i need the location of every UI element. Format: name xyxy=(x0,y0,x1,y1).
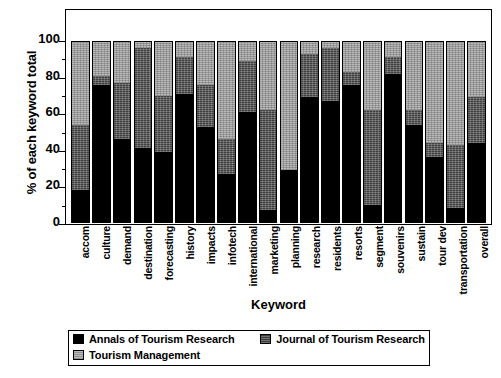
bar-segment xyxy=(321,101,340,223)
y-tick-label: 80 xyxy=(26,69,60,82)
legend-swatch-icon-tourism-management xyxy=(73,350,84,360)
x-tick-destination: destination xyxy=(133,226,152,298)
y-tick-label: 60 xyxy=(26,105,60,118)
bar-segment xyxy=(300,41,319,54)
y-minor-tick-mark xyxy=(62,96,66,97)
bar-destination[interactable] xyxy=(134,41,153,223)
x-tick-label: demand xyxy=(121,226,133,265)
bar-overall[interactable] xyxy=(467,41,486,223)
bar-segment xyxy=(446,145,465,209)
y-tick-label: 0 xyxy=(26,215,60,228)
x-tick-label: segment xyxy=(373,226,385,268)
x-tick-label: marketing xyxy=(268,226,280,274)
bar-segment xyxy=(342,85,361,223)
bar-segment xyxy=(425,157,444,223)
bar-segment xyxy=(342,72,361,85)
bar-segment xyxy=(384,57,403,73)
bar-segment xyxy=(217,139,236,174)
bar-segment xyxy=(467,41,486,97)
bar-culture[interactable] xyxy=(92,41,111,223)
bar-segment xyxy=(259,210,278,223)
bar-international[interactable] xyxy=(238,41,257,223)
x-tick-souvenirs: souvenirs xyxy=(384,226,403,298)
x-tick-label: infotech xyxy=(226,226,238,265)
bar-impacts[interactable] xyxy=(196,41,215,223)
x-tick-residents: residents xyxy=(322,226,341,298)
bar-sustain[interactable] xyxy=(405,41,424,223)
x-tick-research: research xyxy=(301,226,320,298)
bar-segment xyxy=(175,57,194,93)
bar-resorts[interactable] xyxy=(342,41,361,223)
bar-segment xyxy=(300,97,319,223)
y-tick-label: 20 xyxy=(26,178,60,191)
bar-segment xyxy=(196,127,215,223)
x-tick-planning: planning xyxy=(280,226,299,298)
y-tick-mark xyxy=(59,151,66,152)
bar-segment xyxy=(425,143,444,158)
bar-segment xyxy=(259,41,278,110)
bar-segment xyxy=(384,41,403,57)
bar-residents[interactable] xyxy=(321,41,340,223)
bar-transportation[interactable] xyxy=(446,41,465,223)
chart-figure: % of each keyword total 100806040200 acc… xyxy=(0,0,501,378)
bar-segment xyxy=(384,74,403,223)
bar-segment xyxy=(217,174,236,223)
plot-area xyxy=(65,9,492,225)
bar-segment xyxy=(425,41,444,143)
x-tick-resorts: resorts xyxy=(342,226,361,298)
x-tick-infotech: infotech xyxy=(217,226,236,298)
bar-segment xyxy=(154,96,173,152)
x-tick-international: international xyxy=(238,226,257,298)
legend-label-journal: Journal of Tourism Research xyxy=(276,333,425,345)
x-tick-accom: accom xyxy=(70,226,89,298)
bar-segment xyxy=(175,94,194,223)
bar-segment xyxy=(92,85,111,223)
y-minor-tick-mark xyxy=(62,169,66,170)
bar-segment xyxy=(175,41,194,57)
bar-segment xyxy=(259,110,278,210)
x-tick-label: forecasting xyxy=(163,226,175,280)
x-tick-label: destination xyxy=(142,226,154,280)
bar-segment xyxy=(154,152,173,223)
bar-segment xyxy=(196,41,215,85)
bar-segment xyxy=(238,41,257,61)
legend-row-2: Tourism Management xyxy=(73,349,425,365)
x-tick-label: souvenirs xyxy=(394,226,406,274)
bar-forecasting[interactable] xyxy=(154,41,173,223)
y-tick-mark xyxy=(59,41,66,42)
bar-accom[interactable] xyxy=(71,41,90,223)
bar-demand[interactable] xyxy=(113,41,132,223)
bar-marketing[interactable] xyxy=(259,41,278,223)
bar-segment xyxy=(405,41,424,110)
bar-planning[interactable] xyxy=(280,41,299,223)
y-tick-mark xyxy=(59,114,66,115)
legend-swatch-icon-journal xyxy=(260,334,271,344)
bar-segment xyxy=(300,54,319,98)
bar-segment xyxy=(113,139,132,223)
bar-souvenirs[interactable] xyxy=(384,41,403,223)
legend-label-annals: Annals of Tourism Research xyxy=(89,333,235,345)
bar-segment xyxy=(134,148,153,223)
x-tick-label: history xyxy=(184,226,196,260)
y-minor-tick-mark xyxy=(62,133,66,134)
bar-infotech[interactable] xyxy=(217,41,236,223)
x-tick-label: tour dev xyxy=(436,226,448,266)
bar-segment xyxy=(238,61,257,112)
legend-swatch-icon-annals xyxy=(73,334,84,344)
bar-segment[interactable] xyxy=(363,41,382,223)
bar-segment xyxy=(238,112,257,223)
x-tick-segment: segment xyxy=(363,226,382,298)
bar-history[interactable] xyxy=(175,41,194,223)
x-tick-label: impacts xyxy=(205,226,217,264)
bar-segment xyxy=(446,41,465,145)
y-tick-mark xyxy=(59,187,66,188)
x-tick-marketing: marketing xyxy=(259,226,278,298)
bar-research[interactable] xyxy=(300,41,319,223)
bar-segment xyxy=(363,205,382,223)
x-tick-label: resorts xyxy=(352,226,364,260)
bar-segment xyxy=(321,48,340,101)
x-tick-label: overall xyxy=(478,226,490,258)
bar-segment xyxy=(446,208,465,223)
bar-segment xyxy=(71,41,90,125)
bar-tour-dev[interactable] xyxy=(425,41,444,223)
